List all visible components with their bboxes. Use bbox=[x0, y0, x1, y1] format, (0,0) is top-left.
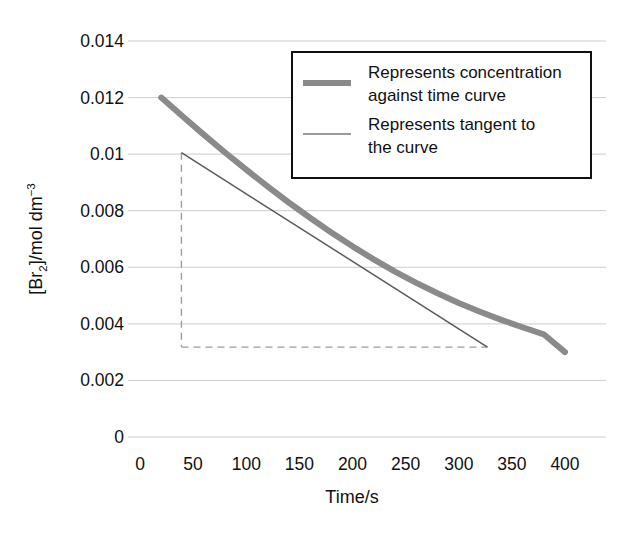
x-tick-label: 250 bbox=[391, 454, 420, 474]
legend-label-concentration-line1: Represents concentration bbox=[368, 63, 562, 82]
y-tick-label: 0.012 bbox=[80, 88, 124, 108]
y-tick-label: 0.014 bbox=[80, 31, 124, 51]
x-tick-label: 0 bbox=[135, 454, 145, 474]
y-tick-label: 0 bbox=[114, 427, 124, 447]
x-axis-title: Time/s bbox=[325, 487, 378, 507]
y-tick-label: 0.008 bbox=[80, 201, 124, 221]
y-axis-title-prefix: [Br bbox=[26, 272, 46, 295]
y-tick-label: 0.006 bbox=[80, 257, 124, 277]
concentration-time-plot: 0.014 0.012 0.01 0.008 0.006 0.004 0.002… bbox=[0, 0, 640, 537]
y-axis-title-middle: ]/mol dm bbox=[26, 196, 46, 265]
y-axis-title: [Br2]/mol dm−3 bbox=[25, 183, 49, 295]
x-axis-tick-labels: 0 50 100 150 200 250 300 350 400 bbox=[135, 454, 580, 474]
chart-legend: Represents concentration against time cu… bbox=[292, 52, 591, 178]
legend-label-tangent-line2: the curve bbox=[368, 138, 438, 157]
y-tick-label: 0.004 bbox=[80, 314, 124, 334]
x-tick-label: 400 bbox=[550, 454, 579, 474]
legend-label-concentration-line2: against time curve bbox=[368, 86, 506, 105]
y-tick-label: 0.01 bbox=[90, 144, 124, 164]
x-tick-label: 150 bbox=[285, 454, 314, 474]
y-tick-label: 0.002 bbox=[80, 370, 124, 390]
legend-label-tangent-line1: Represents tangent to bbox=[368, 115, 535, 134]
x-tick-label: 300 bbox=[444, 454, 473, 474]
x-tick-label: 200 bbox=[338, 454, 367, 474]
svg-text:[Br2]/mol dm−3: [Br2]/mol dm−3 bbox=[25, 183, 49, 295]
x-tick-label: 350 bbox=[497, 454, 526, 474]
y-axis-title-superscript: −3 bbox=[25, 183, 37, 196]
x-tick-label: 50 bbox=[183, 454, 203, 474]
x-tick-label: 100 bbox=[232, 454, 261, 474]
chart-figure: 0.014 0.012 0.01 0.008 0.006 0.004 0.002… bbox=[0, 0, 640, 537]
